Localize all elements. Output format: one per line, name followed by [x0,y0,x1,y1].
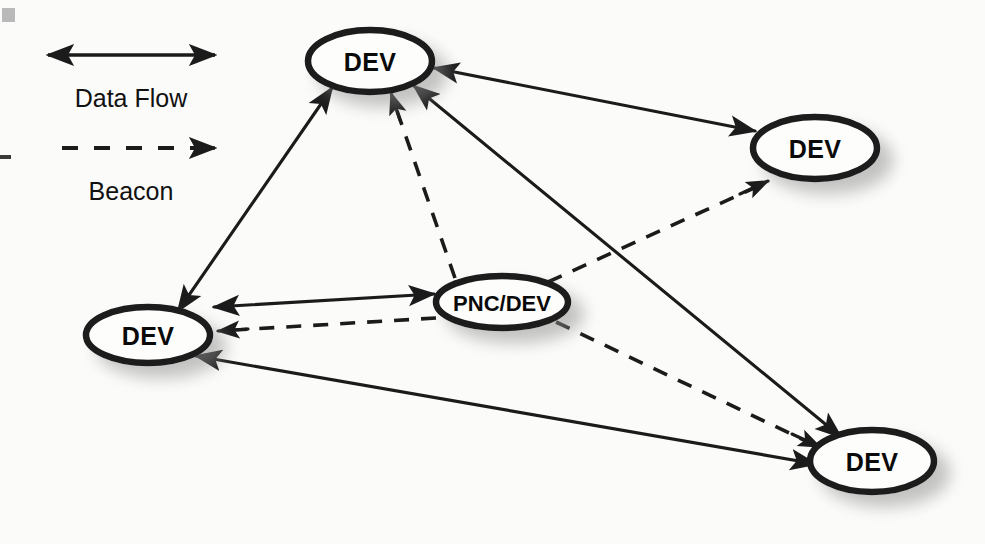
edges-layer [178,68,841,464]
diagram-canvas: Data Flow Beacon [0,0,985,544]
node-pnc-dev-center-label: PNC/DEV [453,291,551,316]
legend-item-beacon: Beacon [62,148,215,205]
edge-top-bottomleft [178,88,332,311]
edge-top-right [434,68,755,131]
node-pnc-dev-center[interactable]: PNC/DEV [436,276,568,328]
edge-center-bottomright [556,322,806,441]
node-dev-bottom-left[interactable]: DEV [86,307,210,363]
node-dev-right-label: DEV [789,135,842,163]
network-diagram: Data Flow Beacon [0,0,985,544]
edge-bottomleft-bottomright [196,356,816,464]
edge-center-right [548,188,754,282]
edge-center-bottomleft [235,318,436,330]
node-dev-bottom-left-label: DEV [122,322,175,350]
legend-label-beacon: Beacon [89,177,174,205]
scan-artifact-dash [0,155,11,159]
node-dev-top[interactable]: DEV [308,30,432,92]
edge-center-right-head [740,181,768,194]
edge-center-top [396,108,455,278]
legend-item-data-flow: Data Flow [48,55,215,112]
node-dev-top-label: DEV [344,48,397,76]
edge-center-top-head [391,93,400,120]
edge-center-bottomleft-head [218,329,248,331]
scan-artifact-square [2,8,15,22]
node-dev-bottom-right-label: DEV [846,448,899,476]
node-dev-right[interactable]: DEV [753,117,877,179]
legend: Data Flow Beacon [48,55,215,205]
legend-label-data-flow: Data Flow [75,84,188,112]
node-dev-bottom-right[interactable]: DEV [810,430,934,492]
edge-bottomleft-center [214,294,434,307]
